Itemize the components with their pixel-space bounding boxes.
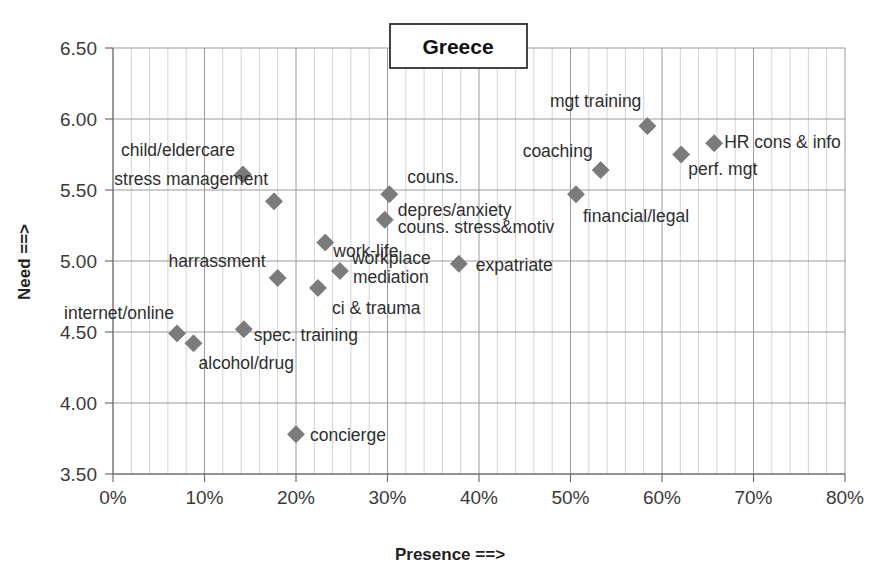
data-point-label: couns. stress&motiv — [398, 217, 555, 237]
data-point-label: spec. training — [254, 325, 358, 345]
x-axis-title: Presence ==> — [395, 545, 505, 564]
x-tick-label: 0% — [99, 487, 127, 508]
chart-svg: 0%10%20%30%40%50%60%70%80% 3.504.004.505… — [0, 0, 882, 579]
data-point-label: harrassment — [168, 251, 265, 271]
data-point-label: ci & trauma — [332, 298, 421, 318]
x-axis-ticks: 0%10%20%30%40%50%60%70%80% — [99, 474, 864, 508]
data-point-label: concierge — [310, 425, 386, 445]
y-tick-label: 4.50 — [60, 322, 97, 343]
y-tick-label: 6.00 — [60, 109, 97, 130]
y-tick-label: 5.00 — [60, 251, 97, 272]
data-point-label: mediation — [353, 267, 429, 287]
data-point-label: HR cons & info — [724, 132, 841, 152]
data-point-label: workplace — [351, 248, 431, 268]
x-tick-label: 20% — [277, 487, 315, 508]
y-axis-title: Need ==> — [15, 224, 34, 300]
y-axis-ticks: 3.504.004.505.005.506.006.50 — [60, 38, 113, 485]
data-point-label: perf. mgt — [688, 159, 757, 179]
data-point-label: couns. — [407, 167, 459, 187]
x-tick-label: 10% — [185, 487, 223, 508]
x-tick-label: 50% — [551, 487, 589, 508]
data-point-label: financial/legal — [583, 206, 689, 226]
data-point-label: coaching — [523, 141, 593, 161]
data-point-label: child/eldercare — [121, 140, 235, 160]
chart-title: Greece — [422, 35, 493, 58]
data-point-label: stress management — [114, 169, 268, 189]
data-point-label: expatriate — [476, 255, 553, 275]
y-tick-label: 5.50 — [60, 180, 97, 201]
x-tick-label: 60% — [643, 487, 681, 508]
y-tick-label: 4.00 — [60, 393, 97, 414]
data-point-label: internet/online — [64, 303, 174, 323]
x-tick-label: 80% — [826, 487, 864, 508]
x-tick-label: 40% — [460, 487, 498, 508]
y-tick-label: 3.50 — [60, 464, 97, 485]
chart-title-box: Greece — [390, 24, 527, 68]
data-point-label: mgt training — [550, 91, 641, 111]
x-tick-label: 70% — [734, 487, 772, 508]
data-point-label: alcohol/drug — [199, 353, 294, 373]
x-tick-label: 30% — [368, 487, 406, 508]
y-tick-label: 6.50 — [60, 38, 97, 59]
scatter-chart: 0%10%20%30%40%50%60%70%80% 3.504.004.505… — [0, 0, 882, 579]
